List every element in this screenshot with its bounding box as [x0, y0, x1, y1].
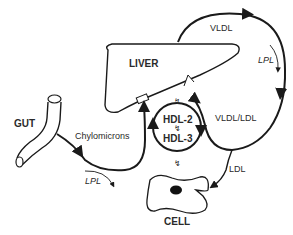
lpl-bottom-label: LPL — [85, 176, 101, 186]
ldl-label: LDL — [229, 164, 246, 174]
vldl-label: VLDL — [210, 23, 233, 33]
hdl3-label: HDL-3 — [163, 133, 193, 144]
lipoprotein-diagram: ↯ ↯ ↯ LIVER GUT CELL HDL-2 HDL-3 Chylomi… — [0, 0, 293, 235]
liver-receptor-rect — [136, 94, 148, 104]
cell-shape — [147, 175, 208, 213]
cell-nucleus — [170, 186, 182, 195]
liver-label: LIVER — [129, 58, 159, 69]
chylomicrons-label: Chylomicrons — [75, 131, 130, 141]
liver-receptor-triangle — [184, 75, 194, 86]
exchange-icon-hdl-cell: ↯ — [174, 159, 181, 168]
lpl-top-label: LPL — [258, 55, 274, 65]
liver-shape — [105, 44, 239, 112]
gut-shape — [17, 102, 61, 165]
exchange-icon-hdl2-hdl3: ↯ — [174, 124, 181, 133]
cell-label: CELL — [164, 216, 190, 227]
gut-label: GUT — [14, 118, 35, 129]
hdl2-label: HDL-2 — [163, 114, 193, 125]
vldl-ldl-label: VLDL/LDL — [215, 113, 257, 123]
exchange-icon-liver-hdl: ↯ — [174, 97, 181, 106]
